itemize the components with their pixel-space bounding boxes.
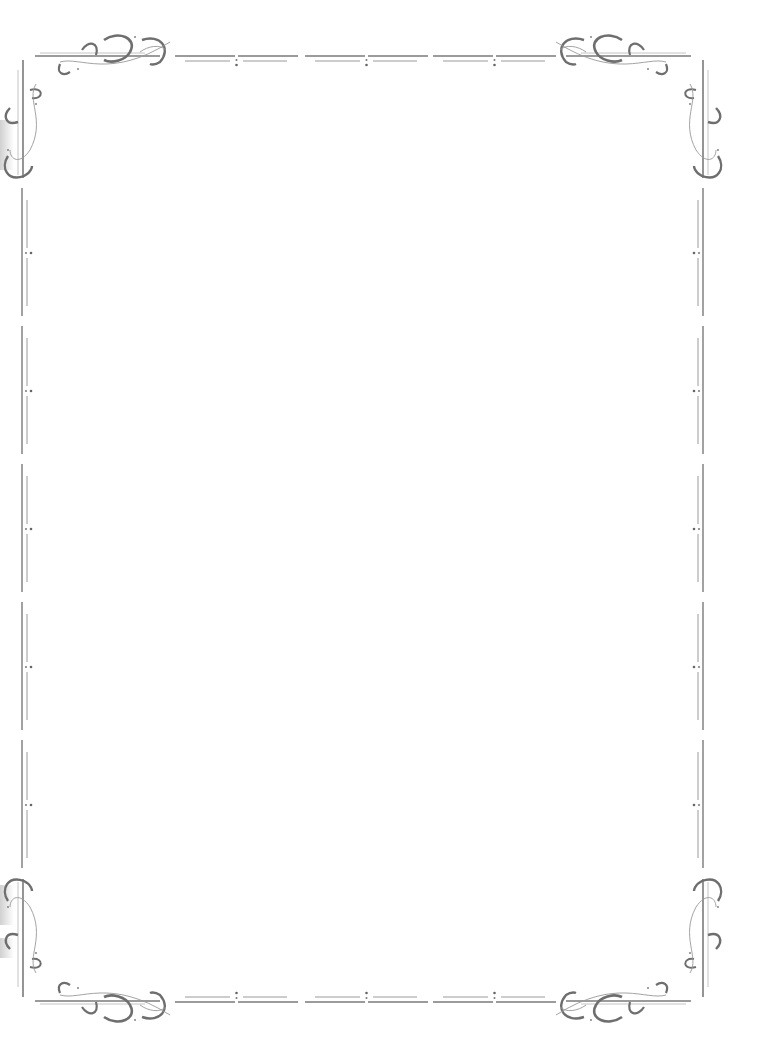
corner-flourish-top-right xyxy=(556,36,721,178)
top-border-segments xyxy=(175,56,556,66)
ornamental-border-frame xyxy=(0,0,766,1060)
right-border-segments xyxy=(693,188,703,868)
left-border-segments xyxy=(22,188,32,868)
corner-flourish-top-left xyxy=(5,36,170,178)
bottom-border-segments xyxy=(175,992,556,1002)
corner-flourish-bottom-left xyxy=(5,879,170,1021)
corner-flourish-bottom-right xyxy=(556,879,721,1021)
